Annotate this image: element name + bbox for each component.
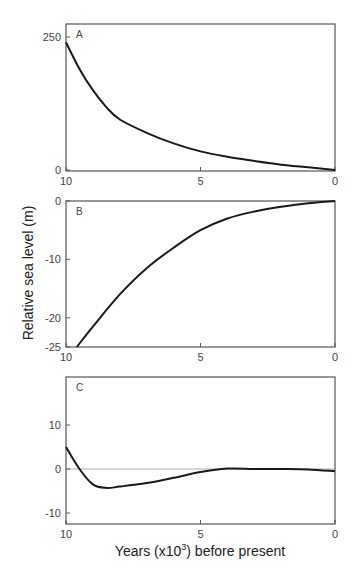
y-axis-title: Relative sea level (m) — [20, 206, 36, 341]
plot-frame — [66, 377, 335, 524]
x-tick-label: 0 — [332, 351, 338, 363]
y-tick-label: 10 — [49, 419, 61, 431]
y-tick-label: -20 — [45, 312, 61, 324]
panel-c: 100-101050C — [45, 377, 338, 540]
x-tick-label: 10 — [60, 528, 72, 540]
series-line-c — [66, 447, 335, 488]
plot-frame — [66, 201, 335, 347]
panel-letter: A — [76, 29, 83, 40]
panel-a: 25001050A — [43, 24, 338, 187]
x-tick-label: 10 — [60, 175, 72, 187]
x-tick-label: 5 — [197, 351, 203, 363]
panel-letter: C — [76, 382, 83, 393]
y-tick-label: -25 — [45, 341, 61, 353]
y-tick-label: 250 — [43, 31, 61, 43]
y-tick-label: -10 — [45, 253, 61, 265]
panel-b: 0-10-20-251050B — [45, 195, 338, 363]
y-tick-label: 0 — [55, 195, 61, 207]
sea-level-chart: 25001050A0-10-20-251050B100-101050C Rela… — [0, 0, 352, 578]
plot-frame — [66, 24, 335, 171]
x-axis-title: Years (x103) before present — [115, 542, 285, 559]
panel-letter: B — [76, 206, 83, 217]
x-tick-label: 0 — [332, 528, 338, 540]
x-tick-label: 5 — [197, 528, 203, 540]
y-tick-label: -10 — [45, 507, 61, 519]
x-tick-label: 10 — [60, 351, 72, 363]
y-tick-label: 0 — [55, 463, 61, 475]
series-line-a — [66, 42, 335, 170]
x-tick-label: 5 — [197, 175, 203, 187]
x-tick-label: 0 — [332, 175, 338, 187]
series-line-b — [77, 201, 335, 347]
